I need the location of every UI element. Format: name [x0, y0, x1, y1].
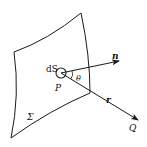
label-sigma: Σ — [26, 112, 34, 122]
label-theta: θ — [76, 74, 81, 83]
label-p: P — [54, 83, 62, 93]
angle-theta-arc — [71, 71, 73, 79]
label-ds: dS — [46, 64, 58, 74]
normal-vector-n — [61, 61, 119, 73]
surface-element-diagram: dS P θ n r Q Σ — [0, 0, 147, 147]
label-q: Q — [129, 123, 137, 133]
vector-r — [61, 73, 138, 120]
label-n: n — [112, 51, 119, 61]
